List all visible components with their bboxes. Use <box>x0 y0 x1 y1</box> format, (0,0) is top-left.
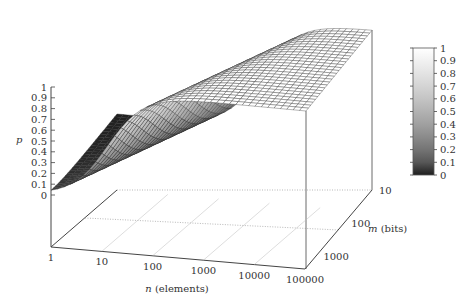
colorbar <box>410 48 437 175</box>
z-tick-label: 0 <box>41 190 47 201</box>
x-tick-label: 100 <box>143 261 162 272</box>
colorbar-tick-label: 0.9 <box>440 55 456 66</box>
colorbar-tick-label: 0.4 <box>440 119 456 130</box>
z-tick-label: 0.3 <box>31 157 47 168</box>
x-tick-label: 10 <box>95 256 108 267</box>
x-tick-label: 1000 <box>191 265 216 276</box>
y-tick-label: 1000 <box>323 251 348 262</box>
z-tick-label: 0.7 <box>31 114 47 125</box>
colorbar-tick-label: 0.3 <box>440 131 456 142</box>
z-tick-label: 0.5 <box>31 136 47 147</box>
colorbar-tick-label: 0.2 <box>440 144 456 155</box>
colorbar-tick-label: 0.8 <box>440 68 456 79</box>
z-tick-label: 0.6 <box>31 125 47 136</box>
colorbar-tick-label: 0.1 <box>440 157 456 168</box>
x-tick-label: 100000 <box>286 274 324 285</box>
z-tick-label: 0.2 <box>31 168 47 179</box>
x-tick-label: 10000 <box>238 270 270 281</box>
y-axis-label: m (bits) <box>368 223 407 234</box>
z-tick-label: 0.9 <box>31 92 47 103</box>
surface-plot: 00.10.20.30.40.50.60.70.80.91p1101001000… <box>0 0 471 300</box>
y-tick-label: 10 <box>379 185 392 196</box>
surface-mesh <box>51 28 372 190</box>
colorbar-tick-label: 1 <box>440 43 446 54</box>
z-tick-label: 0.4 <box>31 146 47 157</box>
z-tick-label: 0.1 <box>31 179 47 190</box>
z-tick-label: 1 <box>41 82 47 93</box>
colorbar-tick-label: 0.5 <box>440 106 456 117</box>
z-tick-label: 0.8 <box>31 103 47 114</box>
x-tick-label: 1 <box>48 252 54 263</box>
colorbar-tick-label: 0.7 <box>440 81 456 92</box>
z-axis-label: p <box>16 134 23 145</box>
colorbar-tick-label: 0 <box>440 170 446 181</box>
colorbar-tick-label: 0.6 <box>440 93 456 104</box>
x-axis-label: n (elements) <box>145 283 209 294</box>
